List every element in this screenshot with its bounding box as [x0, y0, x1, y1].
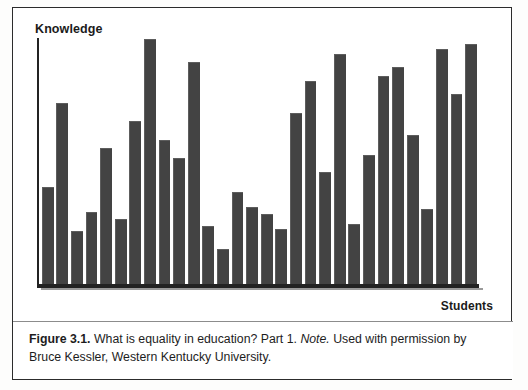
y-axis-line — [37, 38, 39, 284]
bar-series — [40, 38, 478, 284]
bar — [275, 229, 287, 284]
bar — [100, 148, 112, 284]
bar — [246, 207, 258, 284]
bar — [261, 214, 273, 284]
bar — [334, 54, 346, 284]
bar — [115, 219, 127, 284]
bar — [159, 140, 171, 284]
bar — [407, 135, 419, 284]
bar — [392, 67, 404, 284]
figure-root: Knowledge Students Figure 3.1. What is e… — [0, 0, 528, 390]
bar — [421, 209, 433, 284]
y-axis-title: Knowledge — [35, 22, 103, 36]
bar — [363, 155, 375, 284]
figure-frame: Knowledge Students Figure 3.1. What is e… — [12, 7, 512, 380]
bar — [319, 172, 331, 284]
bar — [451, 94, 463, 284]
figure-number-label: Figure 3.1. — [29, 332, 91, 346]
figure-caption-text: Figure 3.1. What is equality in educatio… — [29, 331, 499, 366]
figure-note-label: Note. — [300, 332, 329, 346]
bar — [173, 158, 185, 284]
x-axis-line — [37, 284, 479, 288]
bar — [465, 44, 477, 284]
figure-caption-main: What is equality in education? Part 1. — [91, 332, 301, 346]
bar — [86, 212, 98, 284]
bar — [202, 226, 214, 284]
x-axis-title: Students — [441, 299, 493, 313]
bar — [436, 49, 448, 284]
bar — [305, 81, 317, 284]
bar — [129, 121, 141, 284]
bar — [188, 62, 200, 284]
chart-plot-panel: Knowledge Students — [13, 8, 513, 321]
bar — [71, 231, 83, 284]
bar — [42, 187, 54, 284]
bar — [217, 249, 229, 284]
x-axis-shadow — [41, 288, 483, 290]
bar — [144, 39, 156, 284]
bar — [348, 224, 360, 284]
figure-caption-box: Figure 3.1. What is equality in educatio… — [13, 321, 513, 379]
bar — [378, 76, 390, 284]
bar — [232, 192, 244, 284]
bar — [290, 113, 302, 284]
bar — [56, 103, 68, 284]
